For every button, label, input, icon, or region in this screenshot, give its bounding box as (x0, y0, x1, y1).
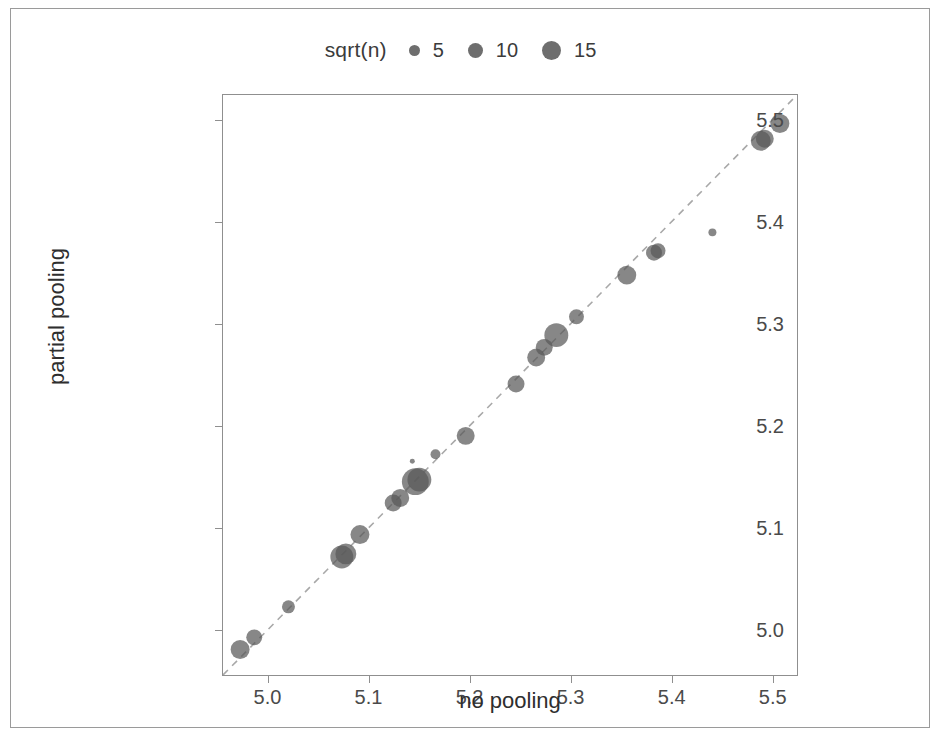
y-tick-label: 5.5 (756, 108, 784, 131)
legend-key-5: 5 (409, 39, 444, 62)
legend-title: sqrt(n) (325, 38, 387, 62)
y-tick-mark (215, 426, 222, 427)
y-tick-label: 5.1 (756, 516, 784, 539)
y-tick-mark (215, 630, 222, 631)
x-axis-title: no pooling (222, 688, 798, 714)
x-tick-mark (470, 676, 471, 683)
y-tick-label: 5.4 (756, 210, 784, 233)
y-tick-label: 5.3 (756, 312, 784, 335)
legend-key-10: 10 (468, 39, 518, 62)
y-axis-title: partial pooling (44, 248, 70, 385)
size-legend: sqrt(n) 5 10 15 (0, 30, 945, 70)
legend-marker-10 (468, 43, 483, 58)
legend-marker-5 (409, 45, 420, 56)
x-tick-mark (571, 676, 572, 683)
y-tick-label: 5.2 (756, 414, 784, 437)
x-tick-mark (268, 676, 269, 683)
y-tick-mark (215, 120, 222, 121)
legend-label-5: 5 (433, 39, 444, 62)
legend-marker-15 (542, 41, 561, 60)
legend-key-15: 15 (542, 39, 596, 62)
y-tick-mark (215, 324, 222, 325)
legend-label-15: 15 (574, 39, 596, 62)
legend-label-10: 10 (496, 39, 518, 62)
axis-layer: 5.05.15.25.35.45.5 5.05.15.25.35.45.5 (222, 94, 798, 676)
x-tick-mark (672, 676, 673, 683)
y-tick-mark (215, 222, 222, 223)
y-tick-mark (215, 528, 222, 529)
figure-root: sqrt(n) 5 10 15 5.05.15.25.35.45.5 5.05.… (0, 0, 945, 753)
x-tick-mark (773, 676, 774, 683)
x-tick-mark (369, 676, 370, 683)
y-tick-label: 5.0 (756, 619, 784, 642)
